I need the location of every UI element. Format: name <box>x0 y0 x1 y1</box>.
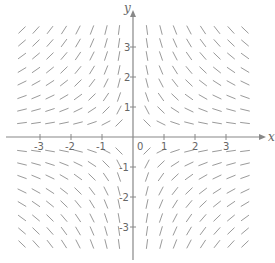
slope-segment <box>46 150 55 151</box>
slope-segment <box>173 26 176 34</box>
slope-segment <box>75 80 81 86</box>
slope-segment <box>61 67 67 73</box>
slope-segment <box>32 201 39 206</box>
slope-segment <box>75 201 81 208</box>
slope-segment <box>242 27 249 33</box>
slope-segment <box>76 26 80 34</box>
slope-segment <box>159 66 162 74</box>
slope-segment <box>173 66 178 74</box>
slope-segment <box>118 66 120 75</box>
slope-segment <box>89 174 95 180</box>
slope-segment <box>173 52 177 60</box>
y-tick-label: 3 <box>124 42 130 53</box>
slope-segment <box>75 67 81 74</box>
slope-segment <box>214 240 220 247</box>
slope-segment <box>19 27 25 33</box>
slope-segment <box>46 95 54 99</box>
slope-segment <box>33 53 40 59</box>
slope-segment <box>172 174 179 180</box>
slope-segment <box>172 94 179 100</box>
slope-segment <box>213 175 221 179</box>
slope-segment <box>146 240 147 249</box>
slope-segment <box>76 39 81 47</box>
slope-segment <box>33 27 39 34</box>
slope-segment <box>171 150 180 153</box>
slope-segment <box>33 241 39 248</box>
slope-segment <box>76 240 80 248</box>
slope-segment <box>144 120 150 126</box>
slope-segment <box>60 95 68 100</box>
slope-segment <box>146 227 147 236</box>
slope-segment <box>104 66 107 74</box>
slope-segment <box>241 163 250 165</box>
slope-segment <box>18 95 26 98</box>
y-tick-label: -2 <box>119 192 129 203</box>
slope-segment <box>200 201 207 207</box>
slope-segment <box>146 187 148 196</box>
slope-segment <box>60 108 68 111</box>
slope-segment <box>105 240 107 249</box>
slope-segment <box>90 227 94 235</box>
slope-segment <box>32 109 41 111</box>
slope-segment <box>105 227 107 236</box>
slope-segment <box>160 240 162 249</box>
slope-segment <box>200 67 207 73</box>
slope-segment <box>62 240 67 248</box>
slope-segment <box>145 106 149 114</box>
slope-segment <box>46 175 54 179</box>
slope-segment <box>61 215 67 222</box>
slope-segment <box>32 67 39 72</box>
slope-segment <box>89 94 95 100</box>
slope-segment <box>146 214 148 223</box>
slope-segment <box>160 52 163 61</box>
slope-segment <box>90 200 95 208</box>
slope-segment <box>145 160 149 168</box>
slope-segment <box>61 39 66 46</box>
slope-segment <box>199 162 207 165</box>
slope-segment <box>213 201 220 207</box>
slope-segment <box>105 52 108 61</box>
slope-segment <box>213 163 222 166</box>
slope-segment <box>60 188 67 194</box>
slope-segment <box>214 53 220 59</box>
slope-segment <box>46 81 54 86</box>
slope-segment <box>118 39 119 48</box>
slope-segment <box>74 162 82 166</box>
slope-segment <box>185 174 192 179</box>
slope-segment <box>186 201 192 208</box>
slope-segment <box>160 26 162 35</box>
slope-segment <box>18 109 27 111</box>
slope-segment <box>228 241 234 248</box>
slope-segment <box>228 215 235 221</box>
slope-segment <box>32 122 41 123</box>
slope-segment <box>201 26 206 34</box>
slope-segment <box>171 108 179 113</box>
x-tick-label: -3 <box>34 141 44 152</box>
slope-segment <box>146 79 148 88</box>
slope-segment <box>185 122 194 124</box>
slope-segment <box>213 189 221 194</box>
slope-segment <box>102 121 110 125</box>
slope-segment <box>117 106 121 114</box>
slope-segment <box>118 240 119 249</box>
slope-segment <box>199 122 208 124</box>
slope-segment <box>88 150 97 153</box>
x-tick-label: 2 <box>192 141 198 152</box>
slope-segment <box>241 109 250 111</box>
slope-segment <box>46 109 55 112</box>
slope-segment <box>214 40 220 47</box>
slope-segment <box>144 148 150 154</box>
slope-segment <box>74 174 81 179</box>
slope-segment <box>172 79 178 86</box>
slope-segment <box>199 80 206 85</box>
slope-segment <box>33 215 40 221</box>
slope-segment <box>227 95 235 98</box>
slope-segment <box>173 240 176 248</box>
slope-segment <box>160 214 163 223</box>
y-axis-arrow-icon <box>130 10 136 17</box>
slope-segment <box>160 227 163 236</box>
slope-segment <box>227 189 235 193</box>
slope-segment <box>187 39 192 47</box>
slope-segment <box>47 240 53 247</box>
slope-segment <box>157 121 165 125</box>
